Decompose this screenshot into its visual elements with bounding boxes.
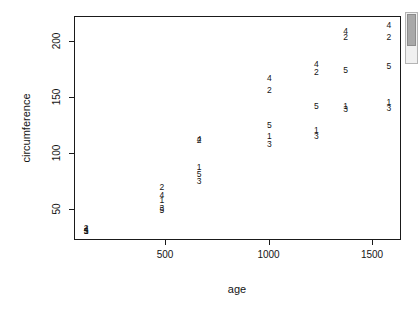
x-axis-tick-label: 1500	[361, 249, 383, 260]
x-axis-tick	[165, 240, 166, 245]
y-axis-tick-label: 200	[51, 32, 62, 49]
x-axis-tick	[372, 240, 373, 245]
x-axis-tick	[269, 240, 270, 245]
x-axis-tick-label: 500	[157, 249, 174, 260]
plot-frame	[74, 16, 401, 240]
y-axis-tick	[69, 153, 74, 154]
y-axis-tick	[69, 209, 74, 210]
scatter-plot-canvas: 50100150200 50010001500 1234512345123451…	[0, 0, 418, 317]
x-axis-title: age	[228, 283, 246, 295]
y-axis-tick	[69, 41, 74, 42]
scrollbar-thumb[interactable]	[407, 14, 416, 46]
y-axis-tick-label: 150	[51, 88, 62, 105]
y-axis-tick-label: 100	[51, 144, 62, 161]
y-axis-tick-label: 50	[51, 203, 62, 214]
y-axis-tick	[69, 97, 74, 98]
vertical-scrollbar[interactable]	[405, 12, 418, 64]
x-axis-tick-label: 1000	[257, 249, 279, 260]
y-axis-title: circumference	[20, 93, 32, 162]
